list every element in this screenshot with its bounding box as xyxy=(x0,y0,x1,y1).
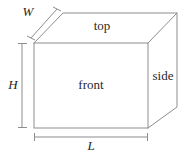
side-face-label: side xyxy=(153,68,174,83)
prism-diagram: W H L top front side xyxy=(0,0,190,159)
top-face-label: top xyxy=(94,18,111,33)
length-dimension-label: L xyxy=(86,138,94,153)
length-dimension: L xyxy=(34,133,148,153)
height-dimension-label: H xyxy=(7,77,18,92)
width-dimension-cap-end xyxy=(53,7,61,11)
front-face-label: front xyxy=(78,77,104,92)
height-dimension: H xyxy=(7,43,27,128)
figure-canvas: W H L top front side xyxy=(0,0,190,159)
width-dimension-label: W xyxy=(23,4,35,19)
width-dimension-cap-start xyxy=(27,36,35,40)
